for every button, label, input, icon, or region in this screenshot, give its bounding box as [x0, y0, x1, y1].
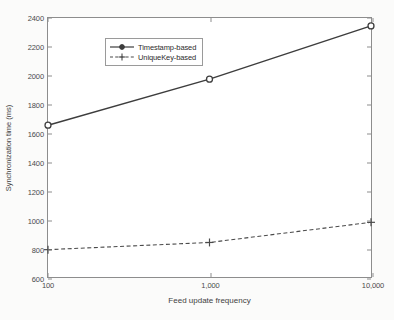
y-tick-mark-right	[367, 134, 371, 135]
y-tick-label: 2400	[28, 14, 44, 23]
chart-legend: Timestamp-based UniqueKey-based	[105, 38, 203, 66]
y-tick-mark	[48, 105, 52, 106]
x-tick-mark	[373, 273, 374, 277]
y-tick-label: 1600	[28, 130, 44, 139]
plot-canvas	[48, 18, 371, 277]
plot-area: 60080010001200140016001800200022002400 1…	[47, 17, 372, 278]
y-tick-mark-right	[367, 192, 371, 193]
y-axis-title: Synchronization time (ms)	[4, 105, 13, 192]
y-tick-mark	[48, 279, 52, 280]
y-tick-mark-right	[367, 250, 371, 251]
y-tick-mark-right	[367, 279, 371, 280]
legend-item-timestamp-based: Timestamp-based	[109, 42, 196, 52]
y-tick-mark	[48, 76, 52, 77]
y-tick-label: 1800	[28, 101, 44, 110]
y-tick-mark-right	[367, 163, 371, 164]
y-tick-mark	[48, 134, 52, 135]
x-tick-label: 100	[42, 281, 54, 290]
y-tick-mark	[48, 47, 52, 48]
legend-label-timestamp-based: Timestamp-based	[138, 43, 196, 52]
y-tick-mark	[48, 221, 52, 222]
legend-item-uniquekey-based: UniqueKey-based	[109, 52, 196, 62]
y-tick-mark-right	[367, 18, 371, 19]
y-tick-label: 1400	[28, 159, 44, 168]
y-tick-mark	[48, 192, 52, 193]
y-tick-label: 1000	[28, 217, 44, 226]
legend-sample-solid-circle-icon	[109, 42, 135, 52]
y-tick-label: 800	[32, 246, 44, 255]
x-tick-mark-top	[48, 18, 49, 22]
y-tick-mark	[48, 18, 52, 19]
y-tick-mark-right	[367, 47, 371, 48]
y-tick-mark	[48, 250, 52, 251]
x-tick-label: 10,000	[362, 281, 384, 290]
y-tick-label: 1200	[28, 188, 44, 197]
legend-label-uniquekey-based: UniqueKey-based	[138, 53, 196, 62]
data-point-marker	[45, 122, 51, 128]
x-axis-title: Feed update frequency	[47, 296, 372, 305]
y-tick-mark-right	[367, 105, 371, 106]
x-tick-mark	[210, 273, 211, 277]
y-tick-label: 2000	[28, 72, 44, 81]
x-tick-mark-top	[373, 18, 374, 22]
y-tick-label: 2200	[28, 43, 44, 52]
y-tick-mark	[48, 163, 52, 164]
legend-sample-dashed-plus-icon	[109, 52, 135, 62]
chart-figure: 60080010001200140016001800200022002400 1…	[0, 0, 394, 320]
data-point-marker	[207, 76, 213, 82]
y-tick-mark-right	[367, 76, 371, 77]
x-tick-label: 1,000	[201, 281, 219, 290]
data-point-marker	[368, 23, 374, 29]
y-tick-mark-right	[367, 221, 371, 222]
x-tick-mark-top	[210, 18, 211, 22]
x-tick-mark	[48, 273, 49, 277]
